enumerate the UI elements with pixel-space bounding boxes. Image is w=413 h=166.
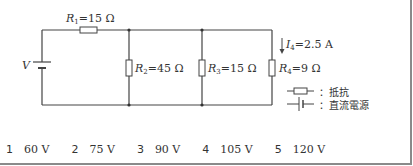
r3-label: R3=15 Ω [208,62,257,76]
r4-label: R4=9 Ω [279,62,321,76]
battery-icon [33,62,51,68]
legend-dc-source-label: ：直流電源 [319,97,369,112]
choice-3[interactable]: 390 V [137,143,180,156]
current-label: I4=2.5 A [286,38,333,52]
choice-2[interactable]: 275 V [71,143,114,156]
current-arrow-icon [280,38,285,54]
r2-label: R2=45 Ω [135,62,184,76]
resistor-r3-icon [199,60,205,76]
legend-resistor-icon [287,88,314,94]
circuit-diagram [0,0,413,166]
resistor-r4-icon [269,60,275,76]
choice-5[interactable]: 5120 V [275,143,325,156]
legend-battery-icon [287,97,314,111]
resistor-r2-icon [126,60,132,76]
choice-1[interactable]: 160 V [6,143,49,156]
r1-label: R1=15 Ω [66,12,115,26]
choice-4[interactable]: 4105 V [202,143,252,156]
source-label: V [22,59,30,72]
answer-choices: 160 V 275 V 390 V 4105 V 5120 V [6,143,347,156]
resistor-r1-icon [80,27,97,33]
